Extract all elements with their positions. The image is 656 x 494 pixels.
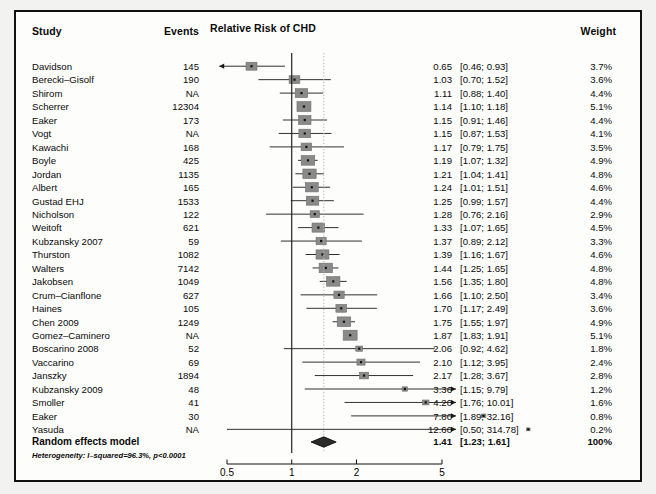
effect-estimate: 3.36 [416,384,452,395]
events-value: 1049 [139,276,199,287]
effect-estimate: 1.56 [416,276,452,287]
point-estimate-marker [293,79,295,81]
events-value: 122 [139,209,199,220]
confidence-interval: [1.89; 32.16] [460,411,513,422]
point-estimate-marker [320,240,322,242]
point-estimate-marker [317,227,319,229]
confidence-interval: [1.17; 2.49] [460,303,508,314]
study-weight: 3.4% [556,290,612,301]
events-value: 165 [139,182,199,193]
effect-estimate: 1.25 [416,196,452,207]
effect-estimate: 1.39 [416,249,452,260]
point-estimate-marker [340,307,342,309]
events-value: 425 [139,155,199,166]
point-estimate-marker [349,334,351,336]
study-weight: 4.1% [556,128,612,139]
figure-frame: Study Events Relative Risk of CHD Weight… [14,10,642,482]
study-weight: 4.8% [556,276,612,287]
events-value: 48 [139,384,199,395]
point-estimate-marker [311,186,313,188]
events-value: 41 [139,397,199,408]
confidence-interval: [1.07; 1.32] [460,155,508,166]
point-estimate-marker [250,65,252,67]
study-weight: 4.4% [556,88,612,99]
confidence-interval: [0.87; 1.53] [460,128,508,139]
events-value: 1894 [139,370,199,381]
effect-estimate: 1.28 [416,209,452,220]
effect-estimate: 1.19 [416,155,452,166]
column-header-weight: Weight [556,25,616,37]
effect-estimate: 2.10 [416,357,452,368]
column-header-study: Study [32,25,62,37]
confidence-interval: [1.12; 3.95] [460,357,508,368]
effect-estimate: 7.80 [416,411,452,422]
study-weight: 4.8% [556,263,612,274]
events-value: NA [139,88,199,99]
confidence-interval: [1.15; 9.79] [460,384,508,395]
study-name: Smoller [32,397,65,408]
events-value: 30 [139,411,199,422]
effect-estimate: 1.44 [416,263,452,274]
effect-estimate: 1.11 [416,88,452,99]
point-estimate-marker [311,200,313,202]
effect-estimate: 1.14 [416,101,452,112]
effect-estimate: 1.24 [416,182,452,193]
point-estimate-marker [363,374,365,376]
events-value: NA [139,424,199,435]
study-weight: 5.1% [556,330,612,341]
study-weight: 3.6% [556,74,612,85]
study-weight: 4.5% [556,222,612,233]
study-name: Walters [32,263,64,274]
ci-arrow-left [219,64,224,69]
study-name: Albert [32,182,57,193]
events-value: 12304 [139,101,199,112]
point-estimate-marker [314,213,316,215]
point-estimate-marker [300,92,302,94]
study-weight: 4.8% [556,169,612,180]
confidence-interval: [0.70; 1.52] [460,74,508,85]
effect-estimate: 1.37 [416,236,452,247]
study-weight: 3.5% [556,142,612,153]
study-name: Boscarino 2008 [32,343,99,354]
study-weight: 3.3% [556,236,612,247]
heterogeneity-text: Heterogeneity: I–squared=96.3%, p<0.0001 [32,451,186,460]
events-value: 145 [139,61,199,72]
events-value: 52 [139,343,199,354]
study-weight: 4.9% [556,155,612,166]
x-axis-tick-label: 5 [430,467,454,478]
study-weight: 1.8% [556,343,612,354]
effect-estimate: 1.66 [416,290,452,301]
effect-estimate: 4.20 [416,397,452,408]
events-value: 1249 [139,317,199,328]
study-name: Crum–Cianflone [32,290,101,301]
study-name: Scherrer [32,101,69,112]
point-estimate-marker [332,280,334,282]
events-value: 69 [139,357,199,368]
effect-estimate: 1.87 [416,330,452,341]
confidence-interval: [1.04; 1.41] [460,169,508,180]
study-name: Janszky [32,370,67,381]
effect-estimate: 1.70 [416,303,452,314]
point-estimate-marker [404,388,406,390]
point-estimate-marker [303,105,305,107]
study-name: Eaker [32,115,57,126]
study-weight: 2.9% [556,209,612,220]
effect-estimate: 1.03 [416,74,452,85]
effect-estimate: 1.21 [416,169,452,180]
study-weight: 3.7% [556,61,612,72]
confidence-interval: [0.88; 1.40] [460,88,508,99]
study-name: Kubzansky 2007 [32,236,103,247]
point-estimate-marker [527,428,529,430]
confidence-interval: [1.01; 1.51] [460,182,508,193]
study-name: Thurston [32,249,70,260]
study-name: Boyle [32,155,56,166]
study-name: Kawachi [32,142,68,153]
study-name: Jordan [32,169,61,180]
confidence-interval: [1.25; 1.65] [460,263,508,274]
point-estimate-marker [358,348,360,350]
events-value: 7142 [139,263,199,274]
effect-estimate: 2.17 [416,370,452,381]
effect-estimate: 0.65 [416,61,452,72]
summary-diamond [311,437,336,447]
confidence-interval: [1.76; 10.01] [460,397,513,408]
